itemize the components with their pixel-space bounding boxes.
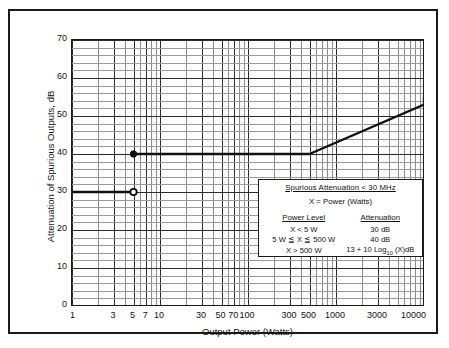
gridline-vertical [274,40,275,305]
x-tick-label: 30 [196,310,206,320]
gridline-vertical [202,40,203,305]
legend-col-attenuation: Attenuation [344,212,417,225]
gridline-horizontal [72,48,423,49]
legend-box: Spurious Attenuation < 30 MHz X = Power … [258,179,423,257]
gridline-vertical [410,40,411,305]
x-tick-label: 70 [228,310,238,320]
x-tick-label: 3000 [367,310,387,320]
gridline-vertical [244,40,245,305]
x-tick-label: 5 [130,310,135,320]
gridline-vertical [186,40,187,305]
gridline-vertical [336,40,337,305]
gridline-horizontal [72,268,423,269]
gridline-vertical [290,40,291,305]
chart-figure: 706050403020100 Attenuation of Spurious … [0,0,449,348]
legend-subtitle: X = Power (Watts) [264,197,417,206]
x-tick-label: 1000 [325,310,345,320]
gridline-vertical [160,40,161,305]
gridline-vertical [248,40,249,305]
gridline-vertical [239,40,240,305]
gridline-vertical [222,40,223,305]
gridline-vertical [316,40,317,305]
gridline-vertical [234,40,235,305]
gridline-horizontal [72,116,423,117]
gridline-horizontal [72,177,423,178]
gridline-vertical [420,40,421,305]
gridline-horizontal [72,291,423,292]
gridline-vertical [322,40,323,305]
legend-table: Power Level Attenuation X < 5 W30 dB5 W … [264,212,417,256]
gridline-vertical [72,40,73,305]
x-axis-tick-labels: 1357103050701003005001000300010000 [71,310,424,324]
gridline-horizontal [72,101,423,102]
legend-power-level: 5 W ≦ X ≦ 500 W [264,235,344,245]
gridline-vertical [140,40,141,305]
gridline-horizontal [72,63,423,64]
legend-power-level: X < 5 W [264,225,344,235]
gridline-vertical [151,40,152,305]
gridline-vertical [332,40,333,305]
gridline-horizontal [72,40,423,41]
legend-row: X < 5 W30 dB [264,225,417,235]
gridline-vertical [156,40,157,305]
x-tick-label: 500 [301,310,316,320]
gridline-vertical [310,40,311,305]
legend-power-level: X > 500 W [264,245,344,256]
gridline-horizontal [72,162,423,163]
x-tick-label: 3 [110,310,115,320]
x-tick-label: 10 [154,310,164,320]
x-tick-label: 10000 [401,310,426,320]
gridline-vertical [125,40,126,305]
gridline-vertical [213,40,214,305]
gridline-horizontal [72,124,423,125]
gridline-horizontal [72,154,423,155]
gridline-vertical [146,40,147,305]
x-tick-label: 1 [70,310,75,320]
gridline-horizontal [72,298,423,299]
gridline-vertical [378,40,379,305]
x-tick-label: 50 [215,310,225,320]
gridline-horizontal [72,146,423,147]
gridline-horizontal [72,55,423,56]
legend-header-row: Power Level Attenuation [264,212,417,225]
gridline-horizontal [72,131,423,132]
legend-title: Spurious Attenuation < 30 MHz [264,183,417,192]
gridline-vertical [301,40,302,305]
gridline-vertical [415,40,416,305]
gridline-horizontal [72,169,423,170]
legend-row: 5 W ≦ X ≦ 500 W40 dB [264,235,417,245]
figure-frame: 706050403020100 Attenuation of Spurious … [8,9,438,334]
legend-attenuation: 40 dB [344,235,417,245]
x-tick-label: 100 [239,310,254,320]
gridline-horizontal [72,283,423,284]
gridline-horizontal [72,139,423,140]
gridline-vertical [327,40,328,305]
x-tick-label: 7 [143,310,148,320]
y-tick-label: 0 [27,300,67,309]
gridline-vertical [362,40,363,305]
gridline-horizontal [72,108,423,109]
gridline-vertical [389,40,390,305]
gridline-horizontal [72,70,423,71]
gridline-vertical [114,40,115,305]
gridline-horizontal [72,93,423,94]
plot-area [71,39,424,306]
x-tick-label: 300 [281,310,296,320]
x-axis-title: Output Power (Watts) [71,326,424,337]
gridline-vertical [404,40,405,305]
gridline-horizontal [72,78,423,79]
legend-col-power-level: Power Level [264,212,344,225]
y-axis-title: Attenuation of Spurious Outputs, dB [45,37,56,297]
legend-attenuation: 13 + 10 Log10 (X)dB [344,245,417,256]
gridline-horizontal [72,260,423,261]
legend-row: X > 500 W13 + 10 Log10 (X)dB [264,245,417,256]
gridline-horizontal [72,276,423,277]
gridline-vertical [98,40,99,305]
gridline-vertical [134,40,135,305]
gridline-vertical [228,40,229,305]
legend-attenuation: 30 dB [344,225,417,235]
gridline-vertical [398,40,399,305]
gridline-horizontal [72,86,423,87]
legend-body: X < 5 W30 dB5 W ≦ X ≦ 500 W40 dBX > 500 … [264,225,417,256]
